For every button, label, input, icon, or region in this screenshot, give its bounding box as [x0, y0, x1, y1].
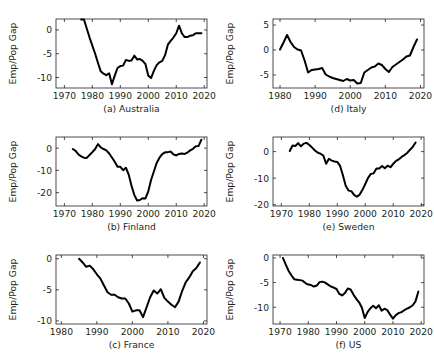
- x-tick-label: 2000: [121, 326, 145, 337]
- y-tick-label: -10: [37, 72, 52, 83]
- x-tick-label: 2010: [165, 90, 189, 101]
- y-tick-label: -10: [37, 165, 52, 176]
- x-tick-label: 1990: [109, 208, 133, 219]
- y-axis-label: Emp/Pop Gap: [7, 140, 18, 202]
- plot-axes-box: [273, 137, 424, 206]
- x-tick-label: 1990: [326, 208, 350, 219]
- y-tick-label: -20: [37, 187, 52, 198]
- figure-panel-grid: 1970198019902000201020200-5-10Emp/Pop Ga…: [0, 0, 434, 358]
- x-tick-label: 2020: [193, 208, 217, 219]
- x-tick-label: 2000: [137, 90, 161, 101]
- chart-svg-b: 1970198019902000201020200-10-20Emp/Pop G…: [0, 118, 217, 234]
- chart-svg-e: 1970198019902000201020200-10-20Emp/Pop G…: [217, 118, 434, 234]
- x-tick-label: 1990: [85, 326, 109, 337]
- x-tick-label: 2000: [339, 90, 363, 101]
- series-line-c: [79, 259, 200, 317]
- plot-axes-box: [56, 137, 207, 206]
- x-tick-label: 2010: [381, 326, 405, 337]
- y-axis-label: Emp/Pop Gap: [7, 258, 18, 320]
- chart-svg-a: 1970198019902000201020200-5-10Emp/Pop Ga…: [0, 0, 217, 116]
- x-tick-label: 2000: [354, 208, 378, 219]
- panel-caption-f: (f) US: [336, 339, 362, 350]
- x-tick-label: 1980: [297, 326, 321, 337]
- x-tick-label: 1980: [268, 90, 292, 101]
- y-tick-label: -5: [43, 284, 52, 295]
- y-tick-label: -20: [254, 199, 269, 210]
- chart-panel-f: 1970198019902000201020200-5-10Emp/Pop Ga…: [217, 236, 434, 352]
- y-tick-label: 0: [263, 146, 269, 157]
- y-tick-label: -5: [260, 69, 269, 80]
- x-tick-label: 2020: [409, 326, 433, 337]
- x-tick-label: 1990: [325, 326, 349, 337]
- x-tick-label: 1970: [268, 326, 292, 337]
- plot-axes-box: [273, 19, 424, 88]
- chart-svg-c: 198019902000201020200-5-10Emp/Pop Gap(c)…: [0, 236, 217, 352]
- series-line-e: [290, 143, 416, 197]
- x-tick-label: 1970: [53, 208, 77, 219]
- plot-axes-box: [56, 255, 207, 324]
- y-tick-label: -10: [254, 302, 269, 313]
- series-line-a: [81, 19, 201, 84]
- x-tick-label: 1970: [53, 90, 77, 101]
- y-tick-label: 0: [46, 143, 52, 154]
- x-tick-label: 2020: [192, 326, 216, 337]
- x-tick-label: 1990: [303, 90, 327, 101]
- x-tick-label: 1970: [270, 208, 294, 219]
- panel-caption-c: (c) France: [109, 339, 155, 350]
- chart-panel-a: 1970198019902000201020200-5-10Emp/Pop Ga…: [0, 0, 217, 116]
- x-tick-label: 2010: [374, 90, 398, 101]
- y-tick-label: 0: [263, 252, 269, 263]
- series-line-d: [280, 35, 417, 84]
- panel-caption-a: (a) Australia: [103, 103, 159, 114]
- y-tick-label: -10: [37, 315, 52, 326]
- x-tick-label: 1990: [109, 90, 133, 101]
- x-tick-label: 1980: [298, 208, 322, 219]
- x-tick-label: 2010: [382, 208, 406, 219]
- y-tick-label: -10: [254, 173, 269, 184]
- y-tick-label: 0: [263, 44, 269, 55]
- chart-svg-d: 1980199020002010202050-5Emp/Pop Gap(d) I…: [217, 0, 434, 116]
- chart-panel-b: 1970198019902000201020200-10-20Emp/Pop G…: [0, 118, 217, 234]
- x-tick-label: 2020: [409, 90, 433, 101]
- y-axis-label: Emp/Pop Gap: [224, 22, 235, 84]
- series-line-f: [283, 258, 418, 319]
- x-tick-label: 2000: [353, 326, 377, 337]
- x-tick-label: 2000: [137, 208, 161, 219]
- chart-panel-c: 198019902000201020200-5-10Emp/Pop Gap(c)…: [0, 236, 217, 352]
- y-axis-label: Emp/Pop Gap: [224, 258, 235, 320]
- chart-panel-d: 1980199020002010202050-5Emp/Pop Gap(d) I…: [217, 0, 434, 116]
- x-tick-label: 2020: [193, 90, 217, 101]
- series-line-b: [73, 140, 202, 201]
- y-axis-label: Emp/Pop Gap: [7, 22, 18, 84]
- y-tick-label: 5: [263, 19, 269, 30]
- y-tick-label: 0: [46, 24, 52, 35]
- x-tick-label: 2010: [156, 326, 180, 337]
- y-tick-label: 0: [46, 253, 52, 264]
- x-tick-label: 1980: [50, 326, 74, 337]
- x-tick-label: 2020: [410, 208, 434, 219]
- panel-caption-e: (e) Sweden: [322, 221, 374, 232]
- x-tick-label: 1980: [81, 90, 105, 101]
- x-tick-label: 1980: [81, 208, 105, 219]
- chart-svg-f: 1970198019902000201020200-5-10Emp/Pop Ga…: [217, 236, 434, 352]
- panel-caption-d: (d) Italy: [331, 103, 367, 114]
- panel-caption-b: (b) Finland: [107, 221, 156, 232]
- plot-axes-box: [56, 19, 207, 88]
- y-axis-label: Emp/Pop Gap: [224, 140, 235, 202]
- y-tick-label: -5: [43, 48, 52, 59]
- y-tick-label: -5: [260, 277, 269, 288]
- x-tick-label: 2010: [165, 208, 189, 219]
- chart-panel-e: 1970198019902000201020200-10-20Emp/Pop G…: [217, 118, 434, 234]
